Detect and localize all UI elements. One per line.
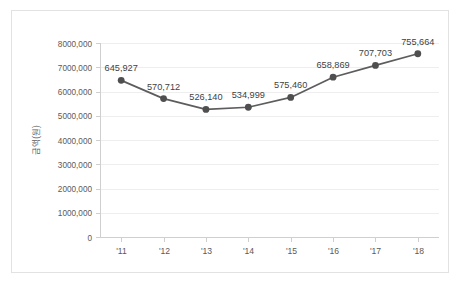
data-point-marker[interactable] <box>330 74 337 81</box>
y-axis-tick-label: 6000,000 <box>58 88 93 97</box>
data-point-marker[interactable] <box>414 50 421 57</box>
data-point-marker[interactable] <box>118 77 125 84</box>
y-axis-tick-label: 1000,000 <box>58 209 93 218</box>
x-axis-tick-label: '17 <box>370 246 381 256</box>
x-axis-tick-label: '15 <box>286 246 297 256</box>
data-point-marker[interactable] <box>245 104 252 111</box>
data-point-label: 755,664 <box>401 37 434 47</box>
data-point-label: 534,999 <box>232 90 265 100</box>
x-axis-tick-label: '13 <box>201 246 212 256</box>
data-point-marker[interactable] <box>372 62 379 69</box>
y-axis-tick-label: 4000,000 <box>58 137 93 146</box>
y-axis-title: 금액(원) <box>31 125 41 155</box>
data-point-marker[interactable] <box>160 95 167 102</box>
data-point-label: 570,712 <box>147 82 180 92</box>
x-axis-tick-label: '12 <box>159 246 170 256</box>
y-axis-tick-label: 8000,000 <box>58 40 93 49</box>
y-axis-tick-label: 3000,000 <box>58 161 93 170</box>
x-axis-tick-label: '11 <box>116 246 127 256</box>
y-axis-tick-label: 7000,000 <box>58 64 93 73</box>
data-point-marker[interactable] <box>287 94 294 101</box>
chart-container: 01000,0002000,0003000,0004000,0005000,00… <box>11 10 449 273</box>
data-point-label: 526,140 <box>189 92 222 102</box>
x-axis-tick-label: '16 <box>328 246 339 256</box>
data-point-label: 707,703 <box>359 48 392 58</box>
plot-area: 01000,0002000,0003000,0004000,0005000,00… <box>12 11 448 272</box>
data-point-label: 645,927 <box>105 63 138 73</box>
data-point-marker[interactable] <box>203 106 210 113</box>
data-point-label: 575,460 <box>274 80 307 90</box>
y-axis-tick-label: 2000,000 <box>58 185 93 194</box>
x-axis-tick-label: '14 <box>243 246 254 256</box>
y-axis-tick-label: 0 <box>87 234 92 243</box>
x-axis-tick-label: '18 <box>413 246 424 256</box>
data-point-label: 658,869 <box>316 60 349 70</box>
y-axis-tick-label: 5000,000 <box>58 112 93 121</box>
line-chart: 01000,0002000,0003000,0004000,0005000,00… <box>12 11 448 272</box>
